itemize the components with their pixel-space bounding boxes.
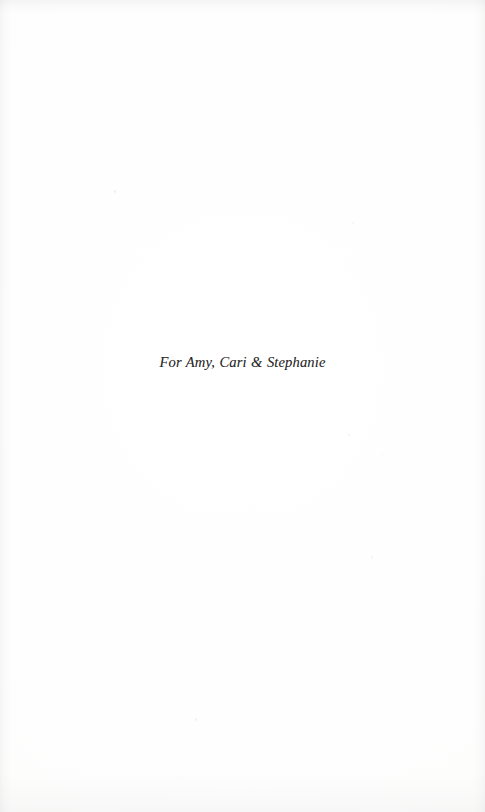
dust-speck bbox=[195, 718, 197, 721]
scanned-book-page: For Amy, Cari & Stephanie bbox=[0, 0, 485, 812]
scan-artifact-right-edge bbox=[473, 0, 485, 812]
dust-speck bbox=[114, 190, 116, 193]
dust-speck bbox=[352, 222, 354, 224]
paper-tone-overlay bbox=[0, 0, 485, 812]
scan-artifact-bottom-edge bbox=[0, 772, 485, 812]
dedication-text: For Amy, Cari & Stephanie bbox=[159, 352, 325, 372]
dust-speck bbox=[382, 454, 383, 456]
dust-speck bbox=[371, 556, 373, 559]
scan-artifact-left-edge bbox=[0, 0, 11, 812]
dust-speck bbox=[348, 434, 350, 436]
scan-artifact-top-edge bbox=[0, 0, 485, 14]
dedication-block: For Amy, Cari & Stephanie bbox=[0, 352, 485, 372]
